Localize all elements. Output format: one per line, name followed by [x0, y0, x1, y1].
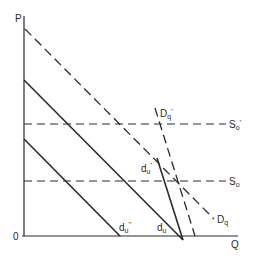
- svg-text:du': du': [141, 161, 152, 175]
- supply-demand-diagram: P Q 0 Dq' So' du' So Dq du'' du: [0, 0, 257, 260]
- label-So: So: [229, 176, 240, 188]
- label-du-prime: du': [141, 161, 152, 175]
- svg-text:Dq: Dq: [217, 214, 228, 227]
- x-axis-label: Q: [231, 239, 239, 250]
- label-Dq: Dq: [217, 214, 228, 227]
- label-Dq-prime: Dq': [160, 107, 173, 121]
- label-du: du: [157, 222, 167, 234]
- curve-du: [24, 80, 183, 240]
- svg-text:So: So: [229, 176, 240, 188]
- y-axis-label: P: [15, 13, 22, 24]
- svg-text:du: du: [157, 222, 167, 234]
- origin-label: 0: [13, 231, 19, 242]
- svg-text:So': So': [229, 118, 242, 131]
- label-du-dprime: du'': [119, 220, 132, 234]
- label-So-prime: So': [229, 118, 242, 131]
- curve-du-dprime: [24, 139, 120, 236]
- svg-text:Dq': Dq': [160, 107, 173, 121]
- svg-text:du'': du'': [119, 220, 132, 234]
